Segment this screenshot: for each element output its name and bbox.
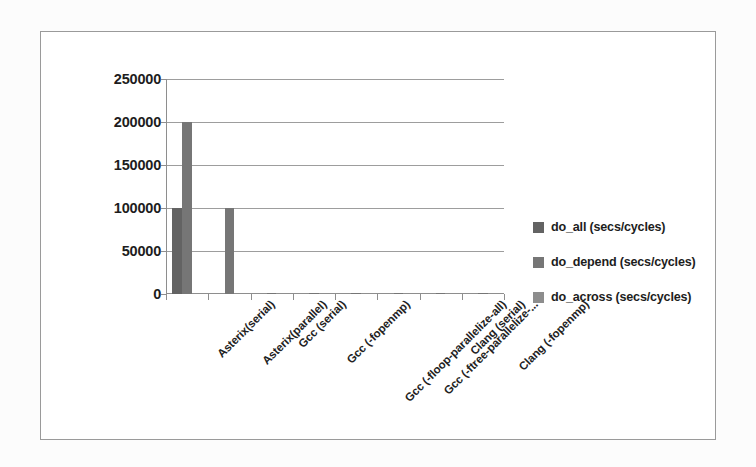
bar-group <box>293 79 335 294</box>
legend-swatch <box>533 292 544 303</box>
legend-swatch <box>533 257 544 268</box>
legend-label: do_across (secs/cycles) <box>551 290 691 304</box>
bar[interactable] <box>394 293 404 294</box>
bar-group <box>166 79 208 294</box>
bar-group <box>335 79 377 294</box>
y-axis-tick-label: 250000 <box>114 71 161 87</box>
bar[interactable] <box>309 293 319 294</box>
bar-group <box>208 79 250 294</box>
bars-layer <box>166 79 504 294</box>
bar-group <box>462 79 504 294</box>
legend-item[interactable]: do_across (secs/cycles) <box>533 290 753 304</box>
bar[interactable] <box>182 122 192 294</box>
y-axis-tick-label: 100000 <box>114 200 161 216</box>
x-axis-labels: Asterix(serial)Asterix(parallel)Gcc (ser… <box>166 296 566 436</box>
chart-legend: do_all (secs/cycles)do_depend (secs/cycl… <box>533 220 753 325</box>
bar-group <box>377 79 419 294</box>
bar[interactable] <box>478 293 488 294</box>
y-axis-tick-label: 150000 <box>114 157 161 173</box>
bar-group <box>420 79 462 294</box>
y-axis-tick-label: 50000 <box>122 243 161 259</box>
legend-swatch <box>533 222 544 233</box>
legend-item[interactable]: do_depend (secs/cycles) <box>533 255 753 269</box>
bar[interactable] <box>436 293 446 294</box>
bar[interactable] <box>172 208 182 294</box>
legend-label: do_all (secs/cycles) <box>551 220 665 234</box>
x-axis-category-label: Gcc (-fopenmp) <box>344 298 412 366</box>
chart-frame: 050000100000150000200000250000 Asterix(s… <box>40 31 716 440</box>
y-axis-tick-label: 0 <box>153 286 161 302</box>
bar[interactable] <box>267 293 277 294</box>
bar[interactable] <box>225 208 235 294</box>
legend-item[interactable]: do_all (secs/cycles) <box>533 220 753 234</box>
legend-label: do_depend (secs/cycles) <box>551 255 696 269</box>
bar-group <box>251 79 293 294</box>
y-axis-labels: 050000100000150000200000250000 <box>89 70 161 302</box>
bar[interactable] <box>351 293 361 294</box>
y-axis-tick-label: 200000 <box>114 114 161 130</box>
